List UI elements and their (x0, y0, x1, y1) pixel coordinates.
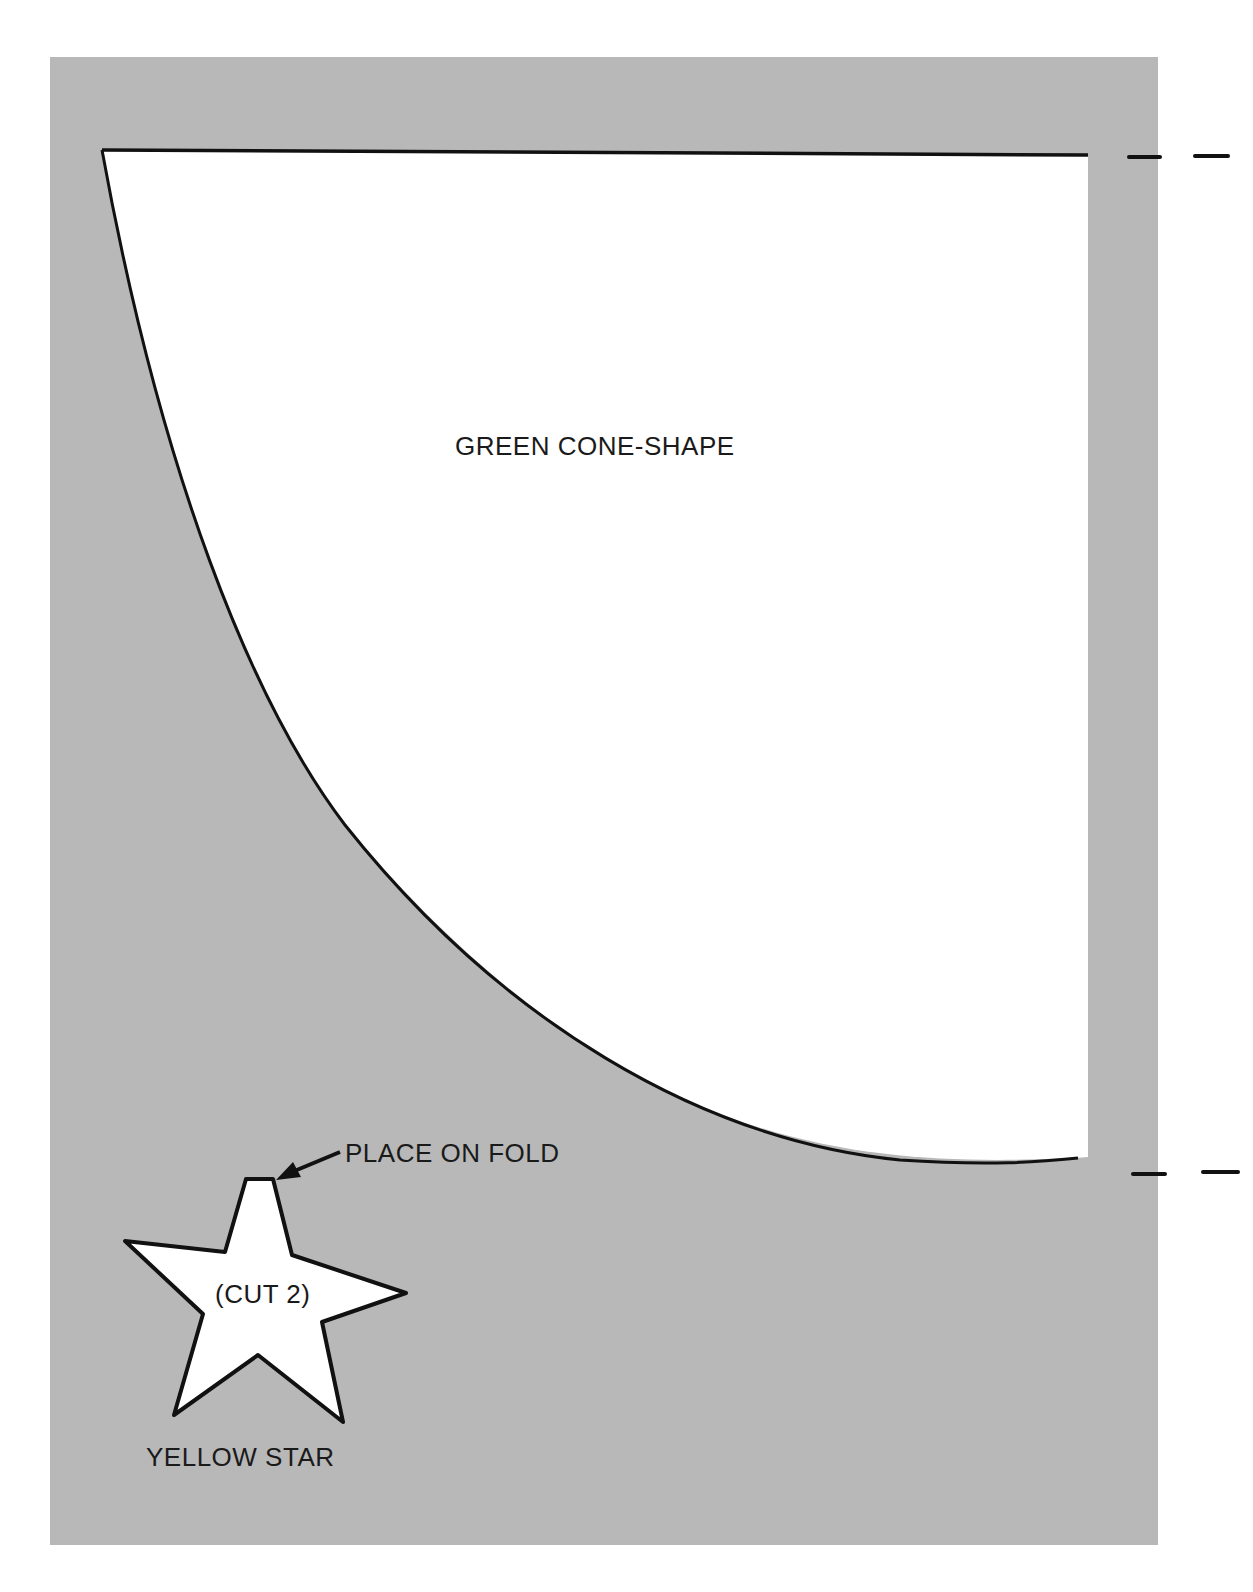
fold-arrow-icon (276, 1152, 340, 1180)
top-fold-mark (1129, 156, 1228, 157)
cone-shape-label: GREEN CONE-SHAPE (455, 431, 735, 462)
cone-shape-outline (102, 150, 1088, 1160)
pattern-drawing (0, 0, 1253, 1592)
fold-note-label: PLACE ON FOLD (345, 1138, 560, 1169)
cut-count-label: (CUT 2) (215, 1279, 310, 1310)
star-shape-label: YELLOW STAR (146, 1442, 335, 1473)
bottom-fold-mark (1133, 1172, 1238, 1174)
